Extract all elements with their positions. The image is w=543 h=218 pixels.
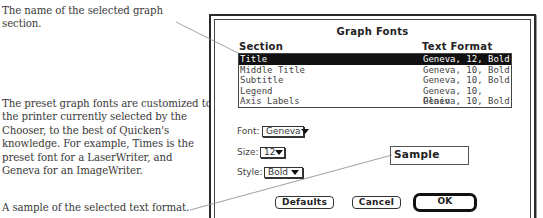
column-header-text-format: Text Format — [422, 41, 492, 52]
text-format: Geneva, 10, Bold — [423, 96, 510, 107]
list-item[interactable]: Legend Geneva, 10, Plain — [239, 86, 511, 97]
graph-fonts-dialog: Graph Fonts Section Text Format Title Ge… — [209, 14, 536, 218]
text-format: Geneva, 12, Bold — [423, 54, 510, 65]
font-popup[interactable]: Geneva — [262, 126, 304, 137]
section-name: Subtitle — [240, 75, 283, 86]
list-item[interactable]: Middle Title Geneva, 10, Bold — [239, 65, 511, 76]
style-popup[interactable]: Bold — [264, 167, 303, 178]
dialog-title: Graph Fonts — [211, 26, 534, 37]
dropdown-triangle-icon — [301, 129, 309, 134]
dropdown-triangle-icon — [275, 150, 283, 155]
cancel-button[interactable]: Cancel — [352, 196, 401, 209]
list-item-selected[interactable]: Title Geneva, 12, Bold — [239, 54, 511, 65]
annotation-section-name: The name of the selected graph section. — [2, 4, 202, 31]
style-label: Style: — [237, 167, 263, 177]
size-popup[interactable]: 12 — [260, 147, 285, 158]
text-format: Geneva, 10, Bold — [423, 65, 510, 76]
defaults-button[interactable]: Defaults — [275, 196, 334, 209]
section-name: Title — [240, 54, 267, 65]
ok-button[interactable]: OK — [417, 196, 473, 209]
list-item[interactable]: Axis Labels Geneva, 10, Bold — [239, 96, 511, 107]
dropdown-triangle-icon — [291, 170, 299, 175]
section-list[interactable]: Title Geneva, 12, Bold Middle Title Gene… — [238, 53, 512, 108]
sample-text-box: Sample — [390, 146, 469, 165]
font-value: Geneva — [266, 127, 301, 136]
list-item[interactable]: Subtitle Geneva, 10, Bold — [239, 75, 511, 86]
font-label: Font: — [237, 126, 260, 136]
size-value: 12 — [264, 148, 275, 157]
style-value: Bold — [268, 168, 288, 177]
text-format: Geneva, 10, Bold — [423, 75, 510, 86]
section-name: Legend — [240, 86, 273, 97]
section-name: Middle Title — [240, 65, 305, 76]
size-label: Size: — [237, 147, 259, 157]
annotation-preset-fonts: The preset graph fonts are customized to… — [2, 97, 212, 177]
section-name: Axis Labels — [240, 96, 300, 107]
annotation-sample: A sample of the selected text format. — [2, 201, 212, 214]
column-header-section: Section — [239, 41, 283, 52]
